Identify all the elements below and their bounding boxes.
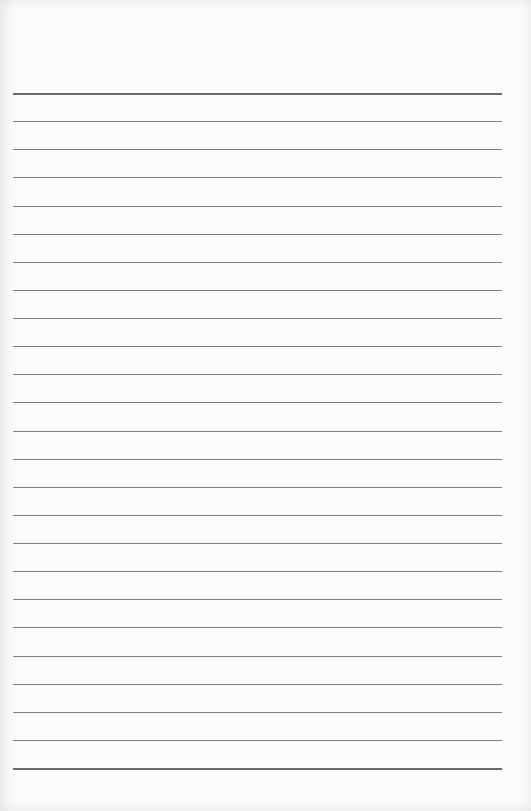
ruled-line	[13, 206, 502, 207]
ruled-line	[13, 515, 502, 516]
lined-paper-page	[0, 0, 531, 811]
ruled-line	[13, 712, 502, 713]
ruled-line	[13, 177, 502, 178]
ruled-line	[13, 149, 502, 150]
ruled-line	[13, 234, 502, 235]
ruled-line	[13, 571, 502, 572]
ruled-line	[13, 768, 502, 770]
ruled-line	[13, 487, 502, 488]
ruled-line	[13, 543, 502, 544]
ruled-line	[13, 121, 502, 122]
ruled-line	[13, 627, 502, 628]
ruled-line	[13, 656, 502, 657]
ruled-line	[13, 318, 502, 319]
ruled-line	[13, 599, 502, 600]
ruled-line	[13, 262, 502, 263]
ruled-line	[13, 431, 502, 432]
ruled-line	[13, 290, 502, 291]
ruled-line	[13, 740, 502, 741]
ruled-line	[13, 346, 502, 347]
ruled-line	[13, 93, 502, 95]
ruled-line	[13, 374, 502, 375]
ruled-line	[13, 402, 502, 403]
ruled-line	[13, 459, 502, 460]
ruled-line	[13, 684, 502, 685]
